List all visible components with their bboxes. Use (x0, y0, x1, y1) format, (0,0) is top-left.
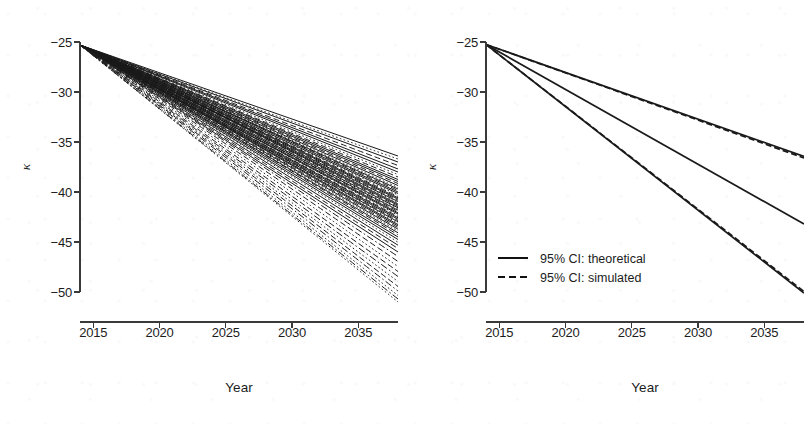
y-tick-label: −40 (51, 185, 72, 200)
y-tick-label: −35 (51, 135, 72, 150)
series-line (80, 45, 398, 267)
y-tick-label: −40 (456, 185, 477, 200)
figure-panels: −25−30−35−40−45−5020152020202520302035Ye… (0, 0, 811, 424)
y-tick-label: −45 (51, 235, 72, 250)
right-panel-axes: −25−30−35−40−45−5020152020202520302035Ye… (424, 35, 804, 396)
y-tick-label: −30 (51, 85, 72, 100)
left-panel-svg: −25−30−35−40−45−5020152020202520302035Ye… (0, 0, 406, 424)
y-tick-label: −25 (51, 35, 72, 50)
x-tick-label: 2035 (344, 325, 372, 340)
x-axis-title: Year (631, 380, 659, 395)
y-tick-label: −45 (456, 235, 477, 250)
y-axis-title: κ (18, 163, 33, 170)
x-tick-label: 2025 (617, 325, 645, 340)
y-tick-label: −25 (456, 35, 477, 50)
left-chart-panel: −25−30−35−40−45−5020152020202520302035Ye… (0, 0, 406, 424)
x-tick-label: 2025 (212, 325, 240, 340)
legend-label: 95% CI: theoretical (540, 252, 646, 266)
y-tick-label: −35 (456, 135, 477, 150)
x-tick-label: 2030 (278, 325, 306, 340)
x-tick-label: 2035 (750, 325, 778, 340)
x-tick-label: 2030 (683, 325, 711, 340)
series-line (80, 45, 398, 245)
y-tick-label: −50 (51, 285, 72, 300)
legend-label: 95% CI: simulated (540, 271, 641, 285)
series-line (80, 45, 398, 240)
y-tick-label: −50 (456, 285, 477, 300)
x-axis-title: Year (225, 380, 253, 395)
series-line (80, 45, 398, 272)
x-tick-label: 2015 (485, 325, 513, 340)
x-tick-label: 2020 (145, 325, 173, 340)
series-line (80, 45, 398, 162)
y-axis-title: κ (424, 163, 439, 170)
right-chart-panel: −25−30−35−40−45−5020152020202520302035Ye… (406, 0, 811, 424)
left-panel-series-group (80, 45, 398, 302)
x-tick-label: 2020 (551, 325, 579, 340)
x-tick-label: 2015 (79, 325, 107, 340)
chart-legend: 95% CI: theoretical95% CI: simulated (498, 252, 646, 285)
series-line (486, 45, 804, 225)
y-tick-label: −30 (456, 85, 477, 100)
right-panel-svg: −25−30−35−40−45−5020152020202520302035Ye… (406, 0, 811, 424)
